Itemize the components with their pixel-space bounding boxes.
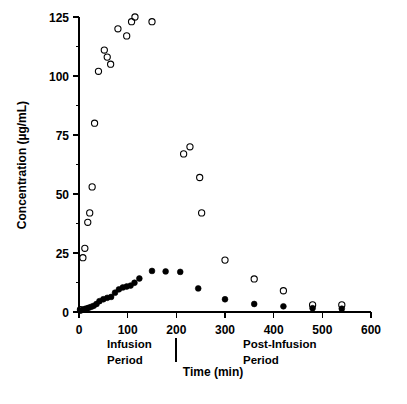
data-point-open (132, 14, 138, 20)
x-tick-label: 200 (166, 323, 186, 337)
data-point-open (199, 210, 205, 216)
data-point-filled (281, 303, 287, 309)
data-point-filled (149, 268, 155, 274)
data-point-open (87, 210, 93, 216)
x-tick-label: 100 (118, 323, 138, 337)
post-infusion-period-label-line2: Period (243, 354, 279, 366)
x-tick-label: 300 (215, 323, 235, 337)
data-point-open (104, 54, 110, 60)
data-point-open (251, 276, 257, 282)
data-point-filled (251, 301, 257, 307)
y-tick-label: 100 (49, 70, 69, 84)
data-point-open (85, 219, 91, 225)
data-point-open (222, 257, 228, 263)
infusion-period-label-line2: Period (107, 354, 143, 366)
data-point-open (187, 144, 193, 150)
data-point-filled (136, 276, 142, 282)
data-point-open (80, 255, 86, 261)
y-axis-title: Concentration (µg/mL) (15, 101, 29, 229)
open-circle-series-group (77, 14, 345, 313)
data-point-open (197, 174, 203, 180)
y-tick-label: 50 (56, 188, 70, 202)
data-point-open (181, 151, 187, 157)
x-tick-label: 600 (361, 323, 381, 337)
y-tick-label: 25 (56, 247, 70, 261)
infusion-period-label-line1: Infusion (107, 338, 152, 350)
filled-circle-series-group (78, 268, 345, 313)
data-point-open (89, 184, 95, 190)
post-infusion-period-label-line1: Post-Infusion (243, 338, 316, 350)
data-point-open (115, 26, 121, 32)
data-point-open (149, 19, 155, 25)
data-point-open (82, 245, 88, 251)
data-point-filled (339, 306, 345, 312)
data-point-filled (177, 269, 183, 275)
concentration-time-figure: 0255075100125 0100200300400500600 Concen… (0, 0, 407, 404)
data-point-open (91, 120, 97, 126)
x-axis-major-ticks (79, 312, 371, 318)
data-point-filled (132, 280, 138, 286)
data-point-filled (222, 296, 228, 302)
y-tick-label: 0 (62, 306, 69, 320)
y-tick-label: 75 (56, 129, 70, 143)
y-tick-label: 125 (49, 11, 69, 25)
data-point-open (124, 33, 130, 39)
data-point-open (95, 68, 101, 74)
x-tick-label: 400 (264, 323, 284, 337)
data-point-open (108, 61, 114, 67)
data-point-filled (195, 286, 201, 292)
y-axis-tick-labels: 0255075100125 (49, 11, 69, 320)
data-point-open (101, 47, 107, 53)
x-axis-title: Time (min) (183, 365, 243, 379)
data-point-open (280, 288, 286, 294)
scatter-plot-svg: 0255075100125 0100200300400500600 Concen… (0, 0, 407, 404)
x-tick-label: 0 (76, 323, 83, 337)
x-tick-label: 500 (312, 323, 332, 337)
axes-group (79, 17, 371, 312)
x-axis-tick-labels: 0100200300400500600 (76, 323, 382, 337)
data-point-filled (163, 269, 169, 275)
data-point-filled (310, 305, 316, 311)
